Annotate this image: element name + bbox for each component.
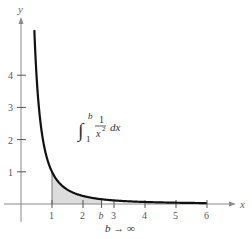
x-tick-label: 4	[142, 210, 147, 221]
x-axis-label: x	[239, 198, 245, 210]
y-tick-label: 2	[8, 135, 13, 146]
limit-label: b → ∞	[105, 222, 135, 234]
integral-sign: ∫	[76, 119, 85, 143]
improper-integral-chart: x y 1234561234b ∫ b 1 1 x 2 dx b → ∞	[0, 0, 252, 239]
fraction-denominator: x	[95, 128, 101, 139]
y-tick-label: 1	[8, 167, 13, 178]
b-tick-label: b	[99, 210, 104, 221]
x-tick-label: 3	[111, 210, 116, 221]
fraction-numerator: 1	[99, 114, 104, 125]
y-axis-label: y	[17, 3, 23, 15]
x-tick-label: 2	[80, 210, 85, 221]
integral-upper-limit: b	[88, 111, 93, 121]
integral-annotation: ∫ b 1 1 x 2 dx	[76, 111, 121, 144]
denominator-exponent: 2	[102, 125, 106, 133]
x-tick-label: 1	[49, 210, 54, 221]
x-tick-label: 5	[173, 210, 178, 221]
curve-1-over-x-squared	[34, 30, 206, 203]
y-axis-arrow-icon	[19, 17, 24, 24]
x-tick-label: 6	[204, 210, 209, 221]
y-tick-label: 4	[8, 70, 13, 81]
integral-lower-limit: 1	[86, 134, 91, 144]
curve	[34, 30, 206, 203]
x-axis-arrow-icon	[229, 202, 236, 207]
differential: dx	[110, 121, 121, 133]
y-tick-label: 3	[8, 102, 13, 113]
